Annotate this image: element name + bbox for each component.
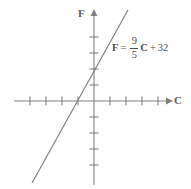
x-axis-label-c: C xyxy=(174,95,182,106)
equation-plus-sign: + xyxy=(150,43,156,54)
fraction-denominator: 5 xyxy=(131,50,138,61)
equation-constant: 32 xyxy=(158,43,169,54)
fahrenheit-celsius-graph-figure: F C F = 9 5 C + 32 xyxy=(0,0,191,189)
graph-canvas xyxy=(0,0,191,189)
equation-variable-c: C xyxy=(140,43,148,54)
y-axis-group xyxy=(90,9,99,185)
equation-equals-sign: = xyxy=(120,43,126,54)
fraction-numerator: 9 xyxy=(131,36,138,47)
y-axis-label-f: F xyxy=(78,8,85,19)
y-axis-arrowhead xyxy=(91,9,98,16)
equation-annotation: F = 9 5 C + 32 xyxy=(112,36,168,60)
equation-lhs: F xyxy=(112,43,118,54)
equation-fraction-nine-fifths: 9 5 xyxy=(130,36,138,60)
x-axis-arrowhead xyxy=(166,98,173,105)
